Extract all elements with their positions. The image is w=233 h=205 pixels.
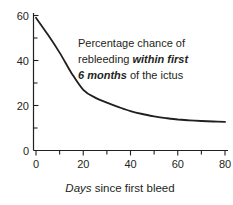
x-axis-tick-label: 80 [219, 158, 231, 170]
annotation-line3: 6 months of the ictus [78, 69, 183, 81]
x-axis-tick-label: 60 [172, 158, 184, 170]
y-axis-tick-label: 20 [17, 100, 29, 112]
x-axis-tick-label: 40 [124, 158, 136, 170]
x-axis-title-italic: Days [65, 182, 91, 194]
x-axis-title: Days since first bleed [20, 182, 220, 194]
chart-annotation: Percentage chance of rebleeding within f… [78, 35, 188, 83]
x-axis-title-rest: since first bleed [92, 182, 175, 194]
y-axis-tick-label: 60 [17, 10, 29, 22]
y-axis-tick-label: 40 [17, 55, 29, 67]
x-axis-tick-label: 0 [33, 158, 39, 170]
tick-labels-layer: 0204060020406080 [17, 10, 231, 171]
annotation-line2: rebleeding within first [78, 53, 188, 65]
x-axis-tick-label: 20 [77, 158, 89, 170]
chart-canvas: 0204060020406080 [0, 0, 233, 205]
rebleeding-risk-figure: 0204060020406080 Percentage chance of re… [0, 0, 233, 205]
annotation-line1: Percentage chance of [78, 37, 185, 49]
y-axis-tick-label: 0 [23, 145, 29, 157]
